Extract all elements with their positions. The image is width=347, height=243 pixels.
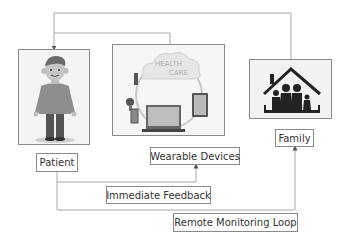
immediate-feedback-label: Immediate Feedback xyxy=(106,186,211,204)
patient-label: Patient xyxy=(36,153,78,172)
wearable-devices-label: Wearable Devices xyxy=(150,147,240,165)
person-icon xyxy=(19,50,90,145)
family-label: Family xyxy=(275,129,314,147)
svg-text:HEALTH: HEALTH xyxy=(155,60,182,68)
diagram-canvas: HEALTH CARE xyxy=(0,0,347,243)
healthcare-cloud-devices-icon: HEALTH CARE xyxy=(113,45,225,136)
svg-text:CARE: CARE xyxy=(169,69,188,77)
patient-image-box xyxy=(18,49,90,145)
edge-wearable-to-patient xyxy=(54,33,170,44)
wearable-image-box: HEALTH CARE xyxy=(112,44,225,136)
family-house-icon xyxy=(250,60,332,119)
family-image-box xyxy=(249,59,332,119)
remote-monitoring-loop-label: Remote Monitoring Loop xyxy=(173,213,298,232)
